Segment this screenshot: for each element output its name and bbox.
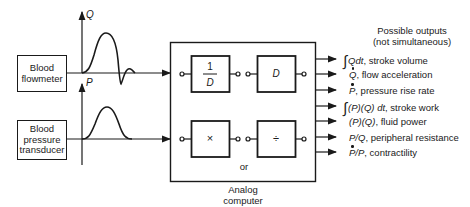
integral-sign: ∫ <box>343 99 347 116</box>
flowmeter-label-1: Blood <box>30 62 54 73</box>
output-desc: , peripheral resistance <box>365 132 458 143</box>
output-desc: , stroke volume <box>363 55 427 66</box>
flowmeter-label-2: flowmeter <box>21 73 62 84</box>
pressure-label-1: Blood <box>30 123 54 134</box>
pressure-waveform <box>82 107 132 139</box>
integrator-denominator: D <box>191 77 229 88</box>
output-stroke-volume: ∫Qdt, stroke volume <box>343 53 428 66</box>
output-flow-acceleration: Q, flow acceleration <box>349 69 432 80</box>
p-axis-label: P <box>86 77 93 88</box>
blood-flowmeter-box: Blood flowmeter <box>17 55 67 92</box>
output-expr: P <box>349 147 355 158</box>
output-desc: , stroke work <box>385 102 439 113</box>
output-desc: , pressure rise rate <box>355 85 434 96</box>
integrator-numerator: 1 <box>191 61 229 72</box>
output-pressure-rise-rate: P, pressure rise rate <box>349 85 435 96</box>
divider-label: ÷ <box>257 133 295 144</box>
output-expr-suffix: /P <box>355 147 364 158</box>
output-expr: (P)(Q) <box>349 116 375 127</box>
blood-pressure-transducer-box: Blood pressure transducer <box>17 120 67 160</box>
output-desc: , contractility <box>364 147 417 158</box>
outputs-header: Possible outputs (not simultaneous) <box>360 25 464 47</box>
multiplier-label: × <box>191 133 229 144</box>
output-expr: P <box>349 85 355 96</box>
integral-sign: ∫ <box>343 52 347 69</box>
output-expr: (P)(Q) dt <box>348 102 385 113</box>
output-stroke-work: ∫(P)(Q) dt, stroke work <box>343 100 439 113</box>
q-axis-label: Q <box>86 9 94 20</box>
differentiator-label: D <box>257 68 295 79</box>
computer-label-1: Analog <box>228 184 258 195</box>
output-fluid-power: (P)(Q), fluid power <box>349 116 427 127</box>
pressure-label-3: transducer <box>20 144 65 155</box>
output-expr: Q <box>349 69 356 80</box>
output-desc: , flow acceleration <box>356 69 432 80</box>
pressure-label-2: pressure <box>24 134 61 145</box>
outputs-header-1: Possible outputs <box>377 25 447 36</box>
output-expr: P/Q <box>349 132 365 143</box>
analog-computer-label: Analog computer <box>213 184 273 206</box>
computer-label-2: computer <box>223 195 263 206</box>
output-peripheral-resistance: P/Q, peripheral resistance <box>349 132 459 143</box>
or-label: or <box>230 161 258 172</box>
output-expr: Qdt <box>348 55 363 66</box>
outputs-header-2: (not simultaneous) <box>373 36 451 47</box>
output-contractility: P/P, contractility <box>349 147 417 158</box>
output-desc: , fluid power <box>375 116 426 127</box>
